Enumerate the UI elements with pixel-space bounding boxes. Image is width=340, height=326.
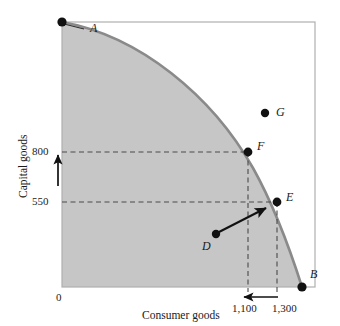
y-axis-title: Capital goods: [18, 134, 30, 198]
data-point-f-label: F: [257, 140, 264, 152]
data-point-d[interactable]: [212, 230, 220, 238]
origin-label: 0: [56, 292, 62, 303]
data-point-a[interactable]: [57, 17, 66, 26]
data-point-f[interactable]: [244, 148, 253, 157]
data-point-g-label: G: [276, 106, 285, 118]
y-tick-label-550: 550: [32, 196, 49, 207]
ppf-chart-figure: A B D E F G 800 550 1,100 1,300 0 Consum…: [0, 0, 340, 326]
data-point-e[interactable]: [273, 198, 282, 207]
x-axis-title: Consumer goods: [142, 310, 220, 322]
y-tick-label-800: 800: [32, 146, 49, 157]
data-point-e-label: E: [286, 191, 293, 203]
chart-canvas: [0, 0, 340, 326]
data-point-d-label: D: [202, 240, 211, 252]
x-tick-label-1100: 1,100: [232, 303, 257, 314]
data-point-b[interactable]: [297, 282, 306, 291]
data-point-g[interactable]: [261, 109, 269, 117]
data-point-b-label: B: [310, 268, 317, 280]
data-point-a-label: A: [90, 22, 97, 34]
attainable-region-shading: [62, 22, 302, 287]
x-tick-label-1300: 1,300: [272, 303, 297, 314]
